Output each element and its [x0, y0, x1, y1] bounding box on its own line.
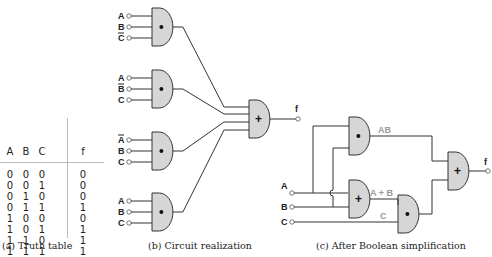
input-terminal-icon [127, 76, 131, 80]
input-label-b: B [281, 202, 288, 212]
input-terminal-icon [127, 210, 131, 214]
or-symbol-icon: + [255, 112, 262, 126]
wire [173, 130, 249, 212]
input-terminal-icon [290, 205, 294, 209]
wire [419, 180, 448, 214]
input-label-b: B [118, 207, 125, 217]
input-label-a: A [118, 135, 125, 145]
input-terminal-icon [127, 221, 131, 225]
input-label-b: B [118, 146, 125, 156]
input-label-c: C [118, 218, 125, 228]
wire [173, 122, 249, 151]
wire [370, 136, 448, 161]
input-terminal-icon [127, 98, 131, 102]
input-terminal-icon [486, 169, 490, 173]
wire-label-a-plus-b: A + B [370, 188, 393, 198]
wire [173, 27, 249, 107]
simplified-circuit: ABC++fABA + BC [281, 117, 490, 233]
or-symbol-icon: + [454, 164, 461, 178]
input-label-a: A [281, 181, 288, 191]
input-label-b: B [118, 84, 125, 94]
wire-label-c: C [380, 211, 387, 221]
input-terminal-icon [127, 138, 131, 142]
wire [173, 89, 249, 114]
output-label-f: f [484, 157, 488, 167]
input-terminal-icon [127, 36, 131, 40]
input-terminal-icon [290, 220, 294, 224]
input-terminal-icon [127, 14, 131, 18]
circuit-diagrams: ABCABCABCABC+f ABC++fABA + BC [0, 0, 492, 257]
input-terminal-icon [127, 199, 131, 203]
input-terminal-icon [127, 25, 131, 29]
and-symbol-icon [356, 134, 360, 138]
input-terminal-icon [127, 87, 131, 91]
input-label-c: C [118, 33, 125, 43]
circuit-realization: ABCABCABCABC+f [118, 8, 300, 231]
input-label-c: C [281, 217, 288, 227]
wire [330, 148, 349, 207]
or-symbol-icon: + [355, 192, 362, 206]
and-symbol-icon [159, 25, 163, 29]
and-symbol-icon [159, 149, 163, 153]
and-symbol-icon [159, 210, 163, 214]
input-label-c: C [118, 95, 125, 105]
input-terminal-icon [127, 160, 131, 164]
input-terminal-icon [127, 149, 131, 153]
output-label-f: f [295, 104, 299, 114]
input-terminal-icon [290, 191, 294, 195]
input-label-a: A [118, 73, 125, 83]
and-symbol-icon [405, 212, 409, 216]
wire [313, 126, 349, 193]
input-label-a: A [118, 196, 125, 206]
wire-label-ab: AB [378, 125, 391, 135]
input-label-a: A [118, 11, 125, 21]
input-terminal-icon [296, 117, 300, 121]
input-label-b: B [118, 22, 125, 32]
and-symbol-icon [159, 87, 163, 91]
input-label-c: C [118, 157, 125, 167]
